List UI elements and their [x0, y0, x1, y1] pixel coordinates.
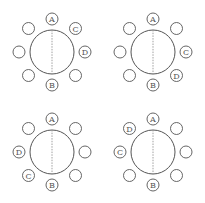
seat-empty: [114, 46, 126, 58]
seat-empty: [124, 70, 136, 82]
seat-label: C: [183, 48, 189, 57]
seat-empty: [70, 123, 82, 135]
seat-empty: [13, 46, 25, 58]
table-2: ACDB: [114, 13, 192, 91]
seat-label: B: [150, 81, 156, 90]
seat-empty: [171, 123, 183, 135]
seat-label: C: [72, 25, 78, 34]
seat-label: B: [49, 181, 55, 190]
table-1: ACDB: [13, 13, 91, 91]
seat-label: D: [173, 72, 179, 81]
seat-empty: [23, 70, 35, 82]
table-3: ABCD: [13, 113, 91, 191]
seat-empty: [124, 23, 136, 35]
seat-empty: [70, 170, 82, 182]
table-4: ABCD: [114, 113, 192, 191]
seat-label: C: [117, 148, 123, 157]
seat-label: A: [48, 115, 55, 124]
seat-label: B: [150, 181, 156, 190]
seat-label: A: [149, 15, 156, 24]
seat-label: B: [49, 81, 55, 90]
seat-empty: [23, 123, 35, 135]
seat-label: C: [25, 172, 31, 181]
seat-empty: [171, 170, 183, 182]
seat-empty: [70, 70, 82, 82]
seat-empty: [23, 23, 35, 35]
seat-label: D: [82, 48, 88, 57]
seat-label: D: [16, 148, 22, 157]
seat-label: D: [126, 125, 132, 134]
seat-label: A: [149, 115, 156, 124]
seat-empty: [124, 170, 136, 182]
seat-label: A: [48, 15, 55, 24]
seating-diagram: ACDBACDBABCDABCD: [0, 0, 205, 203]
seat-empty: [171, 23, 183, 35]
seat-empty: [79, 146, 91, 158]
seat-empty: [180, 146, 192, 158]
